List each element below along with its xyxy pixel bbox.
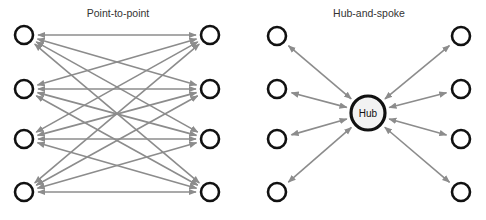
hub-and-spoke-diagram: Hub-and-spoke Hub <box>268 7 470 201</box>
network-diagrams-canvas: Point-to-point Hub-and-spoke Hub <box>0 0 486 220</box>
endpoint-node <box>15 80 33 98</box>
endpoint-node <box>201 130 219 148</box>
endpoint-node <box>201 80 219 98</box>
spoke-arrow <box>389 119 446 135</box>
spoke-arrow <box>288 127 351 182</box>
endpoint-node <box>201 183 219 201</box>
spoke-arrow <box>385 46 450 99</box>
spoke-arrow <box>385 127 450 182</box>
spoke-arrow <box>291 119 346 135</box>
spoke-node <box>452 80 470 98</box>
hub-label: Hub <box>359 108 378 119</box>
spoke-node <box>268 80 286 98</box>
endpoint-node <box>15 183 33 201</box>
endpoint-node <box>15 130 33 148</box>
endpoint-node <box>15 26 33 44</box>
spoke-arrow <box>288 46 351 99</box>
spoke-arrow <box>389 93 446 108</box>
spoke-node <box>452 183 470 201</box>
spoke-node <box>268 130 286 148</box>
hub-node: Hub <box>351 96 385 130</box>
spoke-arrow <box>292 93 347 108</box>
spoke-node <box>452 130 470 148</box>
hub-and-spoke-title: Hub-and-spoke <box>333 7 405 19</box>
spoke-node <box>452 27 470 45</box>
spoke-node <box>268 183 286 201</box>
spoke-node <box>268 27 286 45</box>
point-to-point-diagram: Point-to-point <box>15 7 219 201</box>
endpoint-node <box>201 26 219 44</box>
point-to-point-edges <box>35 35 200 192</box>
point-to-point-title: Point-to-point <box>87 7 150 19</box>
